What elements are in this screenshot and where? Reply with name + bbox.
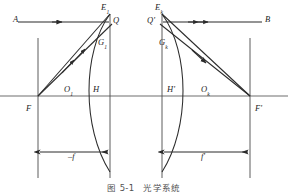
- label-edge-left: E1: [101, 3, 109, 12]
- label-principal-right: H': [167, 85, 175, 94]
- label-o-right-subscript: k: [207, 91, 209, 97]
- label-focus-left: F: [26, 104, 31, 113]
- label-ray-a: A: [13, 15, 18, 24]
- label-q-right: Q': [147, 16, 155, 25]
- label-edge-left-subscript: 1: [106, 9, 109, 15]
- label-edge-right-subscript: k: [160, 9, 162, 15]
- optics-figure: A B E1 Q Ek Q' G1 Gk O1 Ok H H' F F' –f …: [0, 0, 288, 192]
- label-o-right: Ok: [201, 85, 210, 94]
- ray-diagram-canvas: [0, 0, 288, 192]
- label-o-left-subscript: 1: [70, 91, 73, 97]
- label-dimension-left: –f: [68, 152, 75, 161]
- label-principal-left: H: [93, 85, 99, 94]
- label-q-left: Q: [113, 16, 119, 25]
- label-focus-right: F': [255, 104, 262, 113]
- figure-caption: 图 5-1光学系统: [0, 181, 288, 192]
- ray-refracted-right-arrow: [192, 50, 206, 63]
- figure-caption-title: 光学系统: [143, 183, 180, 192]
- label-o-left: O1: [64, 85, 73, 94]
- ray-refracted-left-upper: [38, 14, 110, 96]
- label-g-left-subscript: 1: [104, 44, 107, 50]
- label-g-right: Gk: [159, 38, 168, 47]
- figure-caption-number: 图 5-1: [107, 183, 134, 192]
- label-edge-right: Ek: [155, 3, 163, 12]
- label-g-left: G1: [98, 38, 107, 47]
- ray-refracted-left-arrow-b: [73, 49, 85, 62]
- label-ray-b: B: [265, 15, 270, 24]
- label-g-right-subscript: k: [165, 44, 167, 50]
- label-dimension-right: f': [201, 152, 205, 161]
